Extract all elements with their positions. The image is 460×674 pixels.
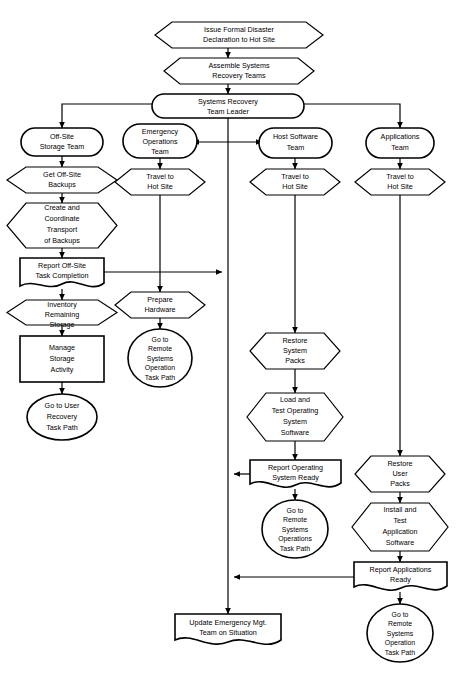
node-restore-system-packs[interactable]: Restore System Packs bbox=[250, 333, 340, 369]
node-eo-travel-hot-site-line-1: Hot Site bbox=[147, 182, 173, 191]
node-app-travel-hot-site-line-0: Travel to bbox=[386, 172, 414, 181]
node-go-to-user-recovery-line-0: Go to User bbox=[45, 401, 80, 410]
node-emergency-operations-team[interactable]: Emergency Operations Team bbox=[123, 124, 197, 158]
node-eo-go-to-remote-line-1: Remote bbox=[148, 345, 172, 352]
node-report-os-ready-line-1: System Ready bbox=[272, 473, 319, 482]
node-manage-storage-activity-line-0: Manage bbox=[49, 343, 75, 352]
node-hs-go-to-remote-line-4: Task Path bbox=[280, 545, 310, 552]
node-host-software-team[interactable]: Host Software Team bbox=[259, 128, 332, 158]
node-team-leader-line-1: Team Leader bbox=[207, 107, 250, 116]
node-eo-travel-hot-site[interactable]: Travel to Hot Site bbox=[115, 169, 205, 195]
node-app-travel-hot-site[interactable]: Travel to Hot Site bbox=[355, 169, 445, 195]
node-restore-user-packs-line-0: Restore bbox=[387, 459, 412, 468]
node-create-coordinate-transport-line-3: of Backups bbox=[44, 236, 80, 245]
node-hs-go-to-remote[interactable]: Go to Remote Systems Operations Task Pat… bbox=[262, 500, 328, 558]
node-app-go-to-remote-line-0: Go to bbox=[392, 611, 409, 618]
node-get-offsite-backups[interactable]: Get Off-Site Backups bbox=[7, 167, 117, 193]
node-install-test-app-software-line-0: Install and bbox=[384, 505, 417, 514]
node-report-offsite-task-completion-line-0: Report Off-Site bbox=[38, 261, 86, 270]
node-create-coordinate-transport-line-0: Create and bbox=[44, 203, 80, 212]
node-hs-go-to-remote-line-1: Remote bbox=[283, 516, 307, 523]
node-inventory-remaining-storage-line-0: Inventory bbox=[47, 300, 77, 309]
node-report-applications-ready[interactable]: Report Applications Ready bbox=[354, 562, 447, 590]
node-inventory-remaining-storage-line-2: Storage bbox=[49, 320, 74, 329]
node-app-go-to-remote[interactable]: Go to Remote Systems Operation Task Path bbox=[367, 604, 433, 662]
node-load-test-os-software-line-2: System bbox=[283, 417, 307, 426]
node-restore-system-packs-line-1: System bbox=[283, 346, 307, 355]
node-prepare-hardware-line-0: Prepare bbox=[147, 295, 173, 304]
node-prepare-hardware[interactable]: Prepare Hardware bbox=[115, 292, 205, 318]
node-prepare-hardware-line-1: Hardware bbox=[144, 305, 175, 314]
node-eo-go-to-remote[interactable]: Go to Remote Systems Operation Task Path bbox=[128, 329, 192, 387]
node-load-test-os-software-line-3: Software bbox=[281, 428, 309, 437]
node-update-emergency-mgt-line-0: Update Emergency Mgt. bbox=[189, 618, 267, 627]
node-offsite-storage-team-line-0: Off-Site bbox=[50, 132, 74, 141]
node-emergency-operations-team-line-0: Emergency bbox=[142, 127, 179, 136]
node-applications-team[interactable]: Applications Team bbox=[366, 128, 434, 158]
node-restore-user-packs[interactable]: Restore User Packs bbox=[355, 456, 445, 492]
node-install-test-app-software-line-3: Software bbox=[386, 538, 414, 547]
node-host-software-team-line-1: Team bbox=[287, 143, 305, 152]
node-app-go-to-remote-line-2: Systems bbox=[387, 630, 414, 638]
node-assemble-teams-line-1: Recovery Teams bbox=[212, 71, 266, 80]
node-hs-travel-hot-site[interactable]: Travel to Hot Site bbox=[250, 169, 340, 195]
conn-leader-to-applications bbox=[304, 104, 400, 128]
node-restore-user-packs-line-1: User bbox=[392, 469, 408, 478]
node-go-to-user-recovery-line-2: Task Path bbox=[46, 423, 78, 432]
node-host-software-team-line-0: Host Software bbox=[273, 132, 318, 141]
node-applications-team-line-1: Team bbox=[391, 143, 409, 152]
node-team-leader[interactable]: Systems Recovery Team Leader bbox=[152, 94, 304, 118]
node-eo-go-to-remote-line-2: Systems bbox=[147, 355, 174, 363]
node-inventory-remaining-storage-line-1: Remaining bbox=[45, 310, 79, 319]
node-app-go-to-remote-line-1: Remote bbox=[388, 620, 412, 627]
node-hs-travel-hot-site-line-0: Travel to bbox=[281, 172, 309, 181]
node-manage-storage-activity-line-2: Activity bbox=[51, 365, 74, 374]
node-report-applications-ready-line-1: Ready bbox=[390, 575, 411, 584]
node-create-coordinate-transport[interactable]: Create and Coordinate Transport of Backu… bbox=[7, 203, 117, 248]
node-report-offsite-task-completion[interactable]: Report Off-Site Task Completion bbox=[20, 258, 104, 287]
node-issue-declaration-line-1: Declaration to Hot Site bbox=[203, 35, 275, 44]
node-hs-go-to-remote-line-0: Go to bbox=[287, 507, 304, 514]
node-offsite-storage-team-line-1: Storage Team bbox=[40, 142, 85, 151]
node-report-os-ready[interactable]: Report Operating System Ready bbox=[250, 460, 341, 487]
node-eo-go-to-remote-line-0: Go to bbox=[152, 336, 169, 343]
node-manage-storage-activity-line-1: Storage bbox=[49, 354, 74, 363]
node-issue-declaration-line-0: Issue Formal Disaster bbox=[204, 25, 275, 34]
node-assemble-teams[interactable]: Assemble Systems Recovery Teams bbox=[164, 58, 314, 84]
node-hs-travel-hot-site-line-1: Hot Site bbox=[282, 182, 308, 191]
node-create-coordinate-transport-line-1: Coordinate bbox=[44, 214, 79, 223]
node-hs-go-to-remote-line-3: Operations bbox=[278, 535, 312, 543]
node-manage-storage-activity[interactable]: Manage Storage Activity bbox=[20, 336, 104, 382]
node-eo-go-to-remote-line-4: Task Path bbox=[145, 374, 175, 381]
node-restore-user-packs-line-2: Packs bbox=[390, 479, 410, 488]
node-update-emergency-mgt-line-1: Team on Situation bbox=[199, 628, 257, 637]
node-emergency-operations-team-line-1: Operations bbox=[142, 137, 178, 146]
node-get-offsite-backups-line-0: Get Off-Site bbox=[43, 170, 81, 179]
node-report-os-ready-line-0: Report Operating bbox=[268, 463, 323, 472]
flowchart-svg: central spine --> central spine --> cent… bbox=[0, 0, 460, 674]
node-app-go-to-remote-line-3: Operation bbox=[385, 639, 415, 647]
connectors: central spine --> central spine --> cent… bbox=[62, 48, 400, 614]
node-load-test-os-software-line-1: Test Operating bbox=[272, 406, 319, 415]
node-eo-travel-hot-site-line-0: Travel to bbox=[146, 172, 174, 181]
node-get-offsite-backups-line-1: Backups bbox=[48, 180, 76, 189]
node-issue-declaration[interactable]: Issue Formal Disaster Declaration to Hot… bbox=[155, 22, 323, 48]
node-assemble-teams-line-0: Assemble Systems bbox=[208, 61, 270, 70]
node-restore-system-packs-line-0: Restore bbox=[282, 336, 307, 345]
node-restore-system-packs-line-2: Packs bbox=[285, 356, 305, 365]
node-app-go-to-remote-line-4: Task Path bbox=[385, 649, 415, 656]
node-update-emergency-mgt[interactable]: Update Emergency Mgt. Team on Situation bbox=[175, 614, 281, 644]
node-report-applications-ready-line-0: Report Applications bbox=[370, 565, 432, 574]
node-load-test-os-software[interactable]: Load and Test Operating System Software bbox=[247, 393, 343, 441]
node-inventory-remaining-storage[interactable]: Inventory Remaining Storage bbox=[7, 300, 117, 329]
node-emergency-operations-team-line-2: Team bbox=[151, 147, 169, 156]
node-report-offsite-task-completion-line-1: Task Completion bbox=[35, 271, 88, 280]
node-go-to-user-recovery[interactable]: Go to User Recovery Task Path bbox=[27, 394, 97, 440]
node-load-test-os-software-line-0: Load and bbox=[280, 395, 310, 404]
node-team-leader-line-0: Systems Recovery bbox=[198, 97, 258, 106]
node-create-coordinate-transport-line-2: Transport bbox=[47, 225, 78, 234]
node-install-test-app-software-line-1: Test bbox=[393, 516, 406, 525]
node-install-test-app-software[interactable]: Install and Test Application Software bbox=[352, 503, 448, 551]
node-hs-go-to-remote-line-2: Systems bbox=[282, 526, 309, 534]
node-offsite-storage-team[interactable]: Off-Site Storage Team bbox=[21, 128, 103, 156]
